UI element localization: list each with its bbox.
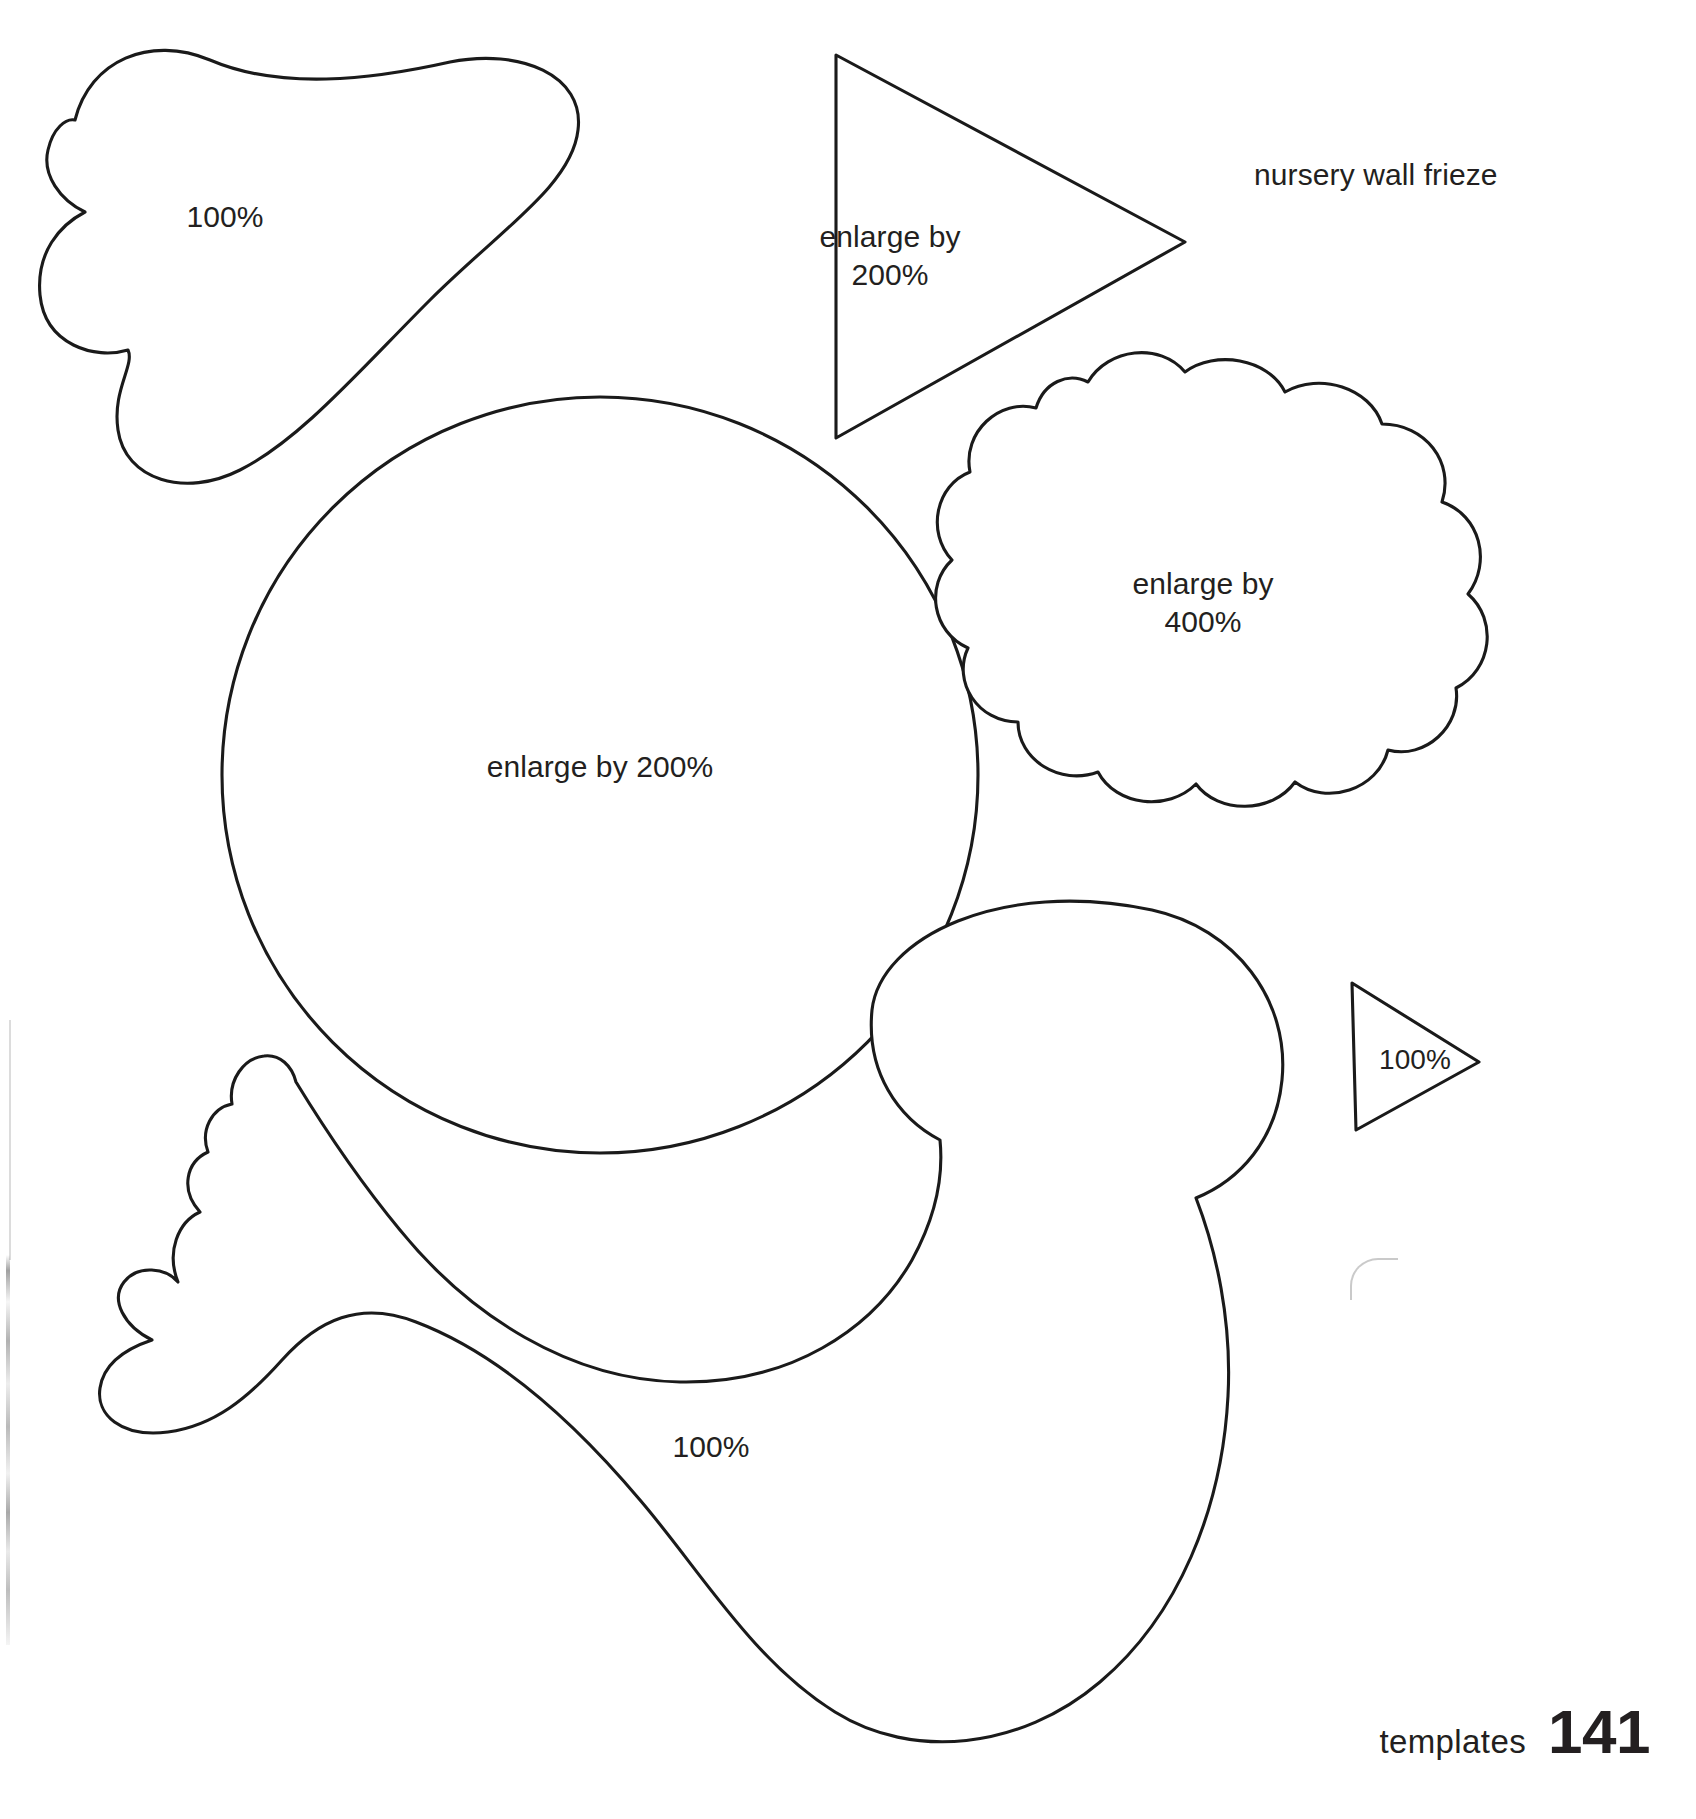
body-circle-outline (222, 397, 978, 1153)
page-footer: templates 141 (1379, 1696, 1650, 1767)
page-caption: nursery wall frieze (1254, 158, 1498, 192)
cloud-shape-outline (936, 353, 1488, 807)
footer-label: templates (1379, 1723, 1526, 1761)
template-page: 100% enlarge by 200% enlarge by 200% enl… (0, 0, 1696, 1819)
page-number: 141 (1548, 1696, 1650, 1767)
template-outlines (0, 0, 1696, 1819)
small-beak-triangle-outline (1352, 983, 1479, 1130)
